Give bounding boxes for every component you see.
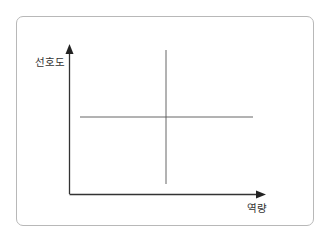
quadrant-diagram xyxy=(0,0,332,239)
x-axis-label: 역량 xyxy=(247,203,267,214)
y-axis xyxy=(66,44,74,194)
y-axis-arrow-icon xyxy=(66,44,74,54)
y-axis-label: 선호도 xyxy=(35,57,65,68)
x-axis-arrow-icon xyxy=(256,191,266,199)
x-axis xyxy=(70,191,267,199)
